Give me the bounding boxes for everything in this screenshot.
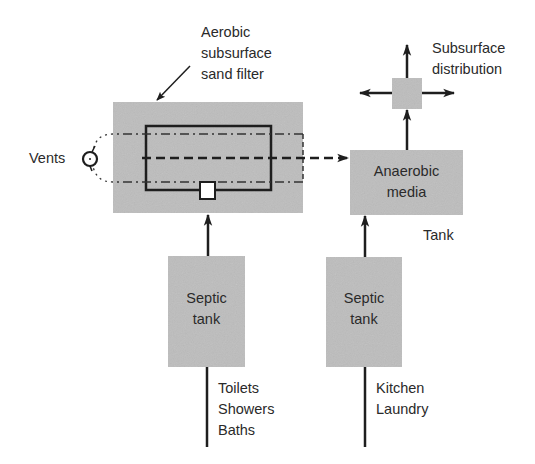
septic-tank-right-label: Septic tank	[326, 288, 402, 330]
source-kitchen: Kitchen	[376, 378, 428, 399]
inlet-box	[200, 182, 215, 199]
anaerobic-line-1: Anaerobic	[350, 161, 463, 182]
vent-loop-bottom	[93, 167, 113, 182]
sand-filter-callout-label: Aerobic subsurface sand filter	[201, 22, 272, 85]
source-showers: Showers	[218, 399, 274, 420]
callout-line-2: subsurface	[201, 43, 272, 64]
tank-caption: Tank	[423, 225, 454, 246]
distribution-box	[392, 78, 422, 109]
callout-arrow	[157, 66, 190, 100]
septic-right-line-1: Septic	[326, 288, 402, 309]
septic-left-line-1: Septic	[168, 288, 245, 309]
distribution-label: Subsurface distribution	[432, 38, 505, 80]
source-toilets: Toilets	[218, 378, 274, 399]
source-laundry: Laundry	[376, 399, 428, 420]
callout-line-3: sand filter	[201, 64, 272, 85]
callout-line-1: Aerobic	[201, 22, 272, 43]
vent-loop-top	[93, 134, 113, 150]
distribution-line-1: Subsurface	[432, 38, 505, 59]
anaerobic-media-label: Anaerobic media	[350, 161, 463, 203]
septic-left-line-2: tank	[168, 309, 245, 330]
vent-icon	[83, 146, 97, 171]
source-baths: Baths	[218, 420, 274, 441]
left-sources-label: Toilets Showers Baths	[218, 378, 274, 441]
distribution-line-2: distribution	[432, 59, 505, 80]
vents-label: Vents	[29, 148, 65, 169]
septic-tank-left-label: Septic tank	[168, 288, 245, 330]
septic-right-line-2: tank	[326, 309, 402, 330]
right-sources-label: Kitchen Laundry	[376, 378, 428, 420]
anaerobic-line-2: media	[350, 182, 463, 203]
